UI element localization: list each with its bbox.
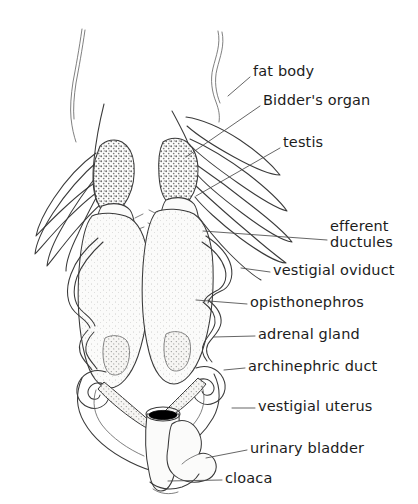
urinary-bladder: [167, 421, 216, 483]
right-fat-body-lobe-2: [186, 117, 280, 175]
label-adrenal-gland: adrenal gland: [258, 326, 360, 342]
label-efferent-ductules: efferent ductules: [330, 218, 393, 250]
label-urinary-bladder: urinary bladder: [250, 440, 364, 456]
left-fat-body-filament: [71, 29, 82, 142]
leader-vestigial-oviduct: [241, 268, 270, 272]
leader-fat-body: [228, 77, 250, 96]
left-adrenal-gland: [103, 336, 130, 375]
leader-adrenal-gland: [214, 336, 255, 337]
label-bidders-organ: Bidder's organ: [263, 92, 370, 108]
leader-urinary-bladder: [206, 450, 247, 458]
right-fat-body-filament-edge: [216, 32, 223, 103]
right-fat-body-lobe-3: [190, 139, 287, 211]
leader-bidders-organ: [186, 106, 260, 157]
right-bidders-organ: [159, 138, 198, 206]
label-archinephric-duct: archinephric duct: [248, 358, 377, 374]
label-fat-body: fat body: [253, 63, 314, 79]
leader-archinephric-duct: [224, 368, 245, 370]
anatomical-figure: fat body Bidder's organ testis efferent …: [0, 0, 418, 504]
left-fat-body-filament-edge: [74, 30, 85, 119]
left-urogenital-half: [35, 29, 159, 472]
left-bidders-organ: [94, 140, 135, 214]
label-vestigial-oviduct: vestigial oviduct: [273, 262, 395, 278]
label-cloaca: cloaca: [225, 470, 273, 486]
label-testis: testis: [283, 134, 323, 150]
label-vestigial-uterus: vestigial uterus: [258, 398, 372, 414]
anatomy-drawing: [0, 0, 418, 504]
leader-cloaca: [168, 480, 222, 481]
cloacal-opening: [149, 410, 177, 419]
leader-efferent-ductules: [203, 231, 327, 240]
label-opisthonephros: opisthonephros: [250, 294, 364, 310]
right-adrenal-gland: [164, 332, 191, 371]
